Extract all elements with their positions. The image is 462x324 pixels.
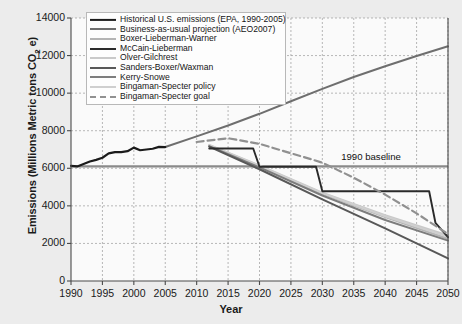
y-tick-4000: 4000 [13,199,65,211]
y-axis-label-post: e) [26,37,38,50]
chart-figure: Emissions (Millions Metric tons CO2 e) Y… [0,0,462,324]
x-axis-label: Year [0,303,462,315]
y-tick-12000: 12000 [13,49,65,61]
y-tick-14000: 14000 [13,11,65,23]
legend-swatch-6 [90,73,116,82]
y-tick-6000: 6000 [13,161,65,173]
legend-item-5: Sanders-Boxer/Waxman [90,63,282,73]
baseline-annotation-label: 1990 baseline [341,151,401,162]
legend-item-3: McCain-Lieberman [90,44,282,54]
legend-label-8: Bingaman-Specter goal [120,92,210,102]
legend-swatch-7 [90,82,116,91]
y-tick-10000: 10000 [13,86,65,98]
legend-swatch-1 [90,25,116,34]
legend-swatch-3 [90,44,116,53]
y-tick-8000: 8000 [13,124,65,136]
y-tick-0: 0 [13,274,65,286]
legend-swatch-0 [90,15,116,24]
legend-swatch-5 [90,63,116,72]
legend-swatch-4 [90,54,116,63]
y-tick-2000: 2000 [13,236,65,248]
legend-swatch-8 [90,92,116,101]
x-tick-2050: 2050 [426,287,462,299]
legend-item-8: Bingaman-Specter goal [90,92,282,102]
legend-swatch-2 [90,34,116,43]
chart-legend: Historical U.S. emissions (EPA, 1990-200… [86,12,286,105]
